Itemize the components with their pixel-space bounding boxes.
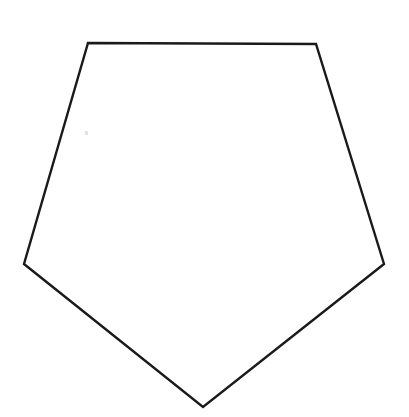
figure-canvas (0, 0, 409, 417)
pentagon-figure (0, 0, 409, 417)
